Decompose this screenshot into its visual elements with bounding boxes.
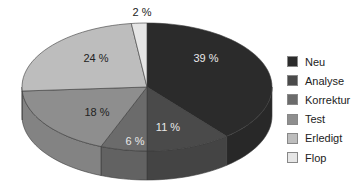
legend-item-neu: Neu [287, 52, 350, 71]
pie-chart: 39 %11 %6 %18 %24 %2 % [0, 0, 280, 187]
data-label-korrektur: 6 % [126, 135, 145, 147]
legend-item-erledigt: Erledigt [287, 129, 350, 148]
legend-swatch [287, 152, 298, 163]
legend-swatch [287, 114, 298, 125]
legend-item-test: Test [287, 110, 350, 129]
pie-side-korrektur [101, 147, 147, 180]
data-label-neu: 39 % [193, 52, 218, 64]
legend-label: Erledigt [305, 132, 342, 144]
legend-swatch [287, 94, 298, 105]
legend-label: Korrektur [305, 94, 350, 106]
legend-item-analyse: Analyse [287, 71, 350, 90]
legend-item-flop: Flop [287, 148, 350, 167]
data-label-analyse: 11 % [156, 121, 180, 133]
legend-item-korrektur: Korrektur [287, 90, 350, 109]
data-label-flop: 2 % [133, 6, 152, 18]
data-label-test: 18 % [84, 106, 109, 118]
legend-label: Test [305, 113, 325, 125]
legend-label: Neu [305, 56, 325, 68]
legend-label: Analyse [305, 75, 344, 87]
data-label-erledigt: 24 % [83, 52, 108, 64]
legend-swatch [287, 56, 298, 67]
legend-label: Flop [305, 152, 326, 164]
chart-legend: Neu Analyse Korrektur Test Erledigt Flop [287, 52, 350, 167]
legend-swatch [287, 133, 298, 144]
legend-swatch [287, 75, 298, 86]
pie-top-faces [22, 23, 272, 151]
